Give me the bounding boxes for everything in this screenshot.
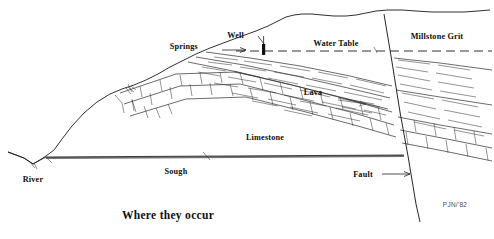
label-springs: Springs [170, 42, 198, 51]
label-millstone-grit: Millstone Grit [411, 32, 464, 41]
label-well: Well [227, 31, 244, 40]
label-lava: Lava [304, 88, 323, 97]
label-river: River [23, 175, 44, 184]
label-limestone: Limestone [246, 133, 284, 142]
artist-signature: PJN/'82 [443, 201, 467, 208]
geological-cross-section-figure: Springs Well Water Table Millstone Grit … [0, 0, 494, 239]
label-sough: Sough [165, 167, 188, 176]
label-fault: Fault [353, 170, 373, 179]
figure-title: Where they occur [122, 209, 214, 222]
label-water-table: Water Table [313, 39, 358, 48]
cross-section-drawing: Springs Well Water Table Millstone Grit … [0, 0, 494, 239]
